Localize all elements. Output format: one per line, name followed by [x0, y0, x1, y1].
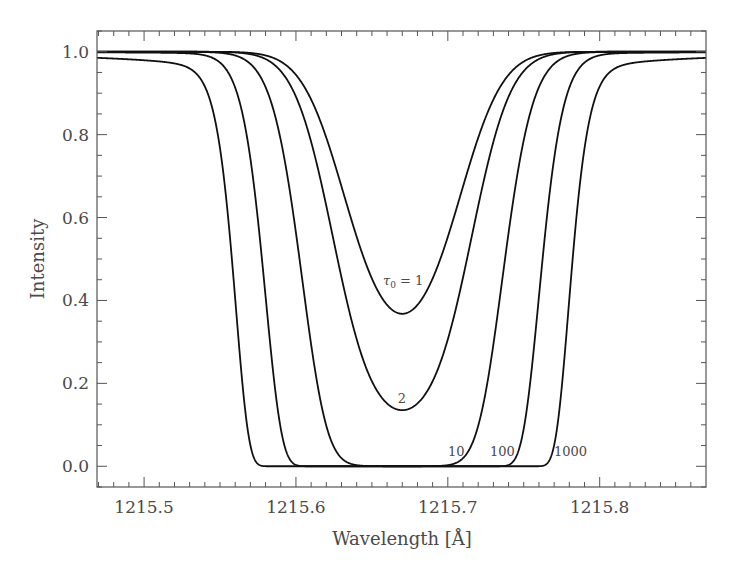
absorption-profile-chart: 1215.51215.61215.71215.80.00.20.40.60.81…: [0, 0, 733, 576]
y-tick-label: 0.0: [62, 456, 89, 476]
label-tau-1000: 1000: [554, 444, 587, 459]
tick-labels-group: 1215.51215.61215.71215.80.00.20.40.60.81…: [62, 42, 629, 517]
x-tick-label: 1215.8: [570, 497, 629, 517]
curve-tau-2: [97, 52, 706, 410]
y-tick-label: 0.6: [62, 208, 89, 228]
x-tick-label: 1215.5: [114, 497, 173, 517]
y-tick-label: 0.8: [62, 125, 89, 145]
x-tick-label: 1215.6: [266, 497, 325, 517]
y-tick-label: 0.2: [62, 373, 89, 393]
y-tick-label: 0.4: [62, 290, 89, 310]
plot-frame: [97, 31, 706, 487]
y-axis-title: Intensity: [27, 218, 48, 299]
y-tick-label: 1.0: [62, 42, 89, 62]
label-tau-100: 100: [490, 444, 515, 459]
x-tick-label: 1215.7: [418, 497, 477, 517]
label-tau-2: 2: [398, 391, 406, 406]
x-axis-title: Wavelength [Å]: [332, 528, 472, 549]
label-tau-1: τ0 = 1: [383, 273, 423, 290]
label-tau-10: 10: [448, 444, 465, 459]
ticks-group: [97, 31, 706, 487]
